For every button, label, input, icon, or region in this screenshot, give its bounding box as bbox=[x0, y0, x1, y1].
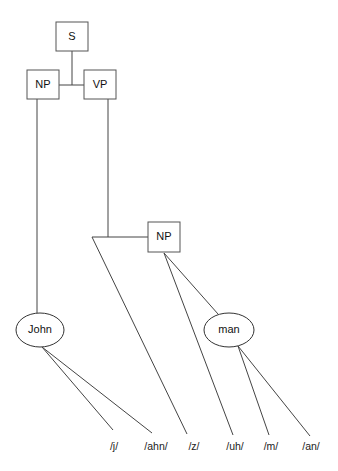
node-np-object-label: NP bbox=[156, 230, 171, 242]
edge-john-ahn bbox=[42, 347, 152, 433]
phoneme-uh: /uh/ bbox=[226, 440, 244, 452]
node-np-subject-label: NP bbox=[35, 78, 50, 90]
node-man: man bbox=[204, 313, 254, 347]
syntax-tree-diagram: S NP VP NP John man /j/ /ahn/ /z/ /uh/ /… bbox=[0, 0, 338, 471]
node-np-object: NP bbox=[148, 222, 180, 252]
node-vp-label: VP bbox=[93, 78, 108, 90]
node-john: John bbox=[16, 313, 64, 347]
phoneme-j: /j/ bbox=[110, 440, 118, 452]
edge-vp-z bbox=[92, 237, 187, 434]
edge-man-m bbox=[238, 346, 269, 435]
node-john-label: John bbox=[28, 323, 52, 335]
edge-np2-man bbox=[164, 253, 218, 314]
node-np-subject: NP bbox=[27, 70, 59, 99]
phoneme-m: /m/ bbox=[264, 440, 279, 452]
node-vp: VP bbox=[84, 70, 116, 99]
edge-john-j bbox=[42, 347, 113, 430]
edge-man-an bbox=[238, 346, 310, 436]
phoneme-ahn: /ahn/ bbox=[144, 440, 167, 452]
node-man-label: man bbox=[218, 323, 239, 335]
phoneme-z: /z/ bbox=[188, 440, 199, 452]
node-s: S bbox=[56, 22, 88, 51]
node-s-label: S bbox=[68, 30, 75, 42]
phoneme-leaves: /j/ /ahn/ /z/ /uh/ /m/ /an/ bbox=[110, 440, 320, 452]
phoneme-an: /an/ bbox=[302, 440, 320, 452]
